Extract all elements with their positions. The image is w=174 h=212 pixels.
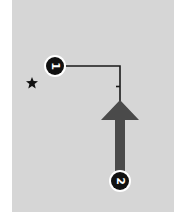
marker-1-badge[interactable]: 1 xyxy=(44,55,66,77)
marker-2-badge[interactable]: 2 xyxy=(109,170,131,192)
route-line xyxy=(65,66,120,102)
marker-1-label: 1 xyxy=(49,62,62,70)
route-diagram: 1 2 xyxy=(0,0,174,212)
star-icon xyxy=(26,77,38,89)
marker-2-label: 2 xyxy=(114,177,127,185)
direction-arrow-icon xyxy=(101,100,139,172)
